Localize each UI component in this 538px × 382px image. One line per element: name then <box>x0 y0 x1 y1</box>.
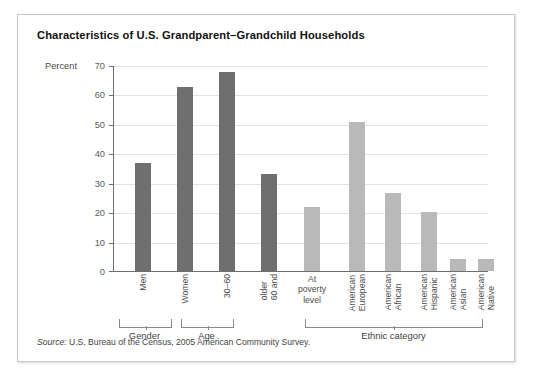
y-tick-50: 50 <box>65 120 105 130</box>
brace-ethnic-category <box>305 319 483 328</box>
gridline-40 <box>113 154 488 155</box>
x-label-line: Women <box>180 274 190 303</box>
gridline-30 <box>113 184 488 185</box>
group-label-ethnic-category: Ethnic category <box>353 330 434 341</box>
x-label-european-american: EuropeanAmerican <box>347 274 367 311</box>
bar-60-and-older <box>261 174 277 271</box>
x-label-line: American <box>383 274 393 310</box>
x-label-line: American <box>476 274 486 310</box>
bar-african-american <box>385 193 401 271</box>
x-label-hispanic-american: HispanicAmerican <box>419 274 439 310</box>
x-label-line: Men <box>138 274 148 291</box>
brace-age <box>181 319 234 328</box>
y-tick-0: 0 <box>65 267 105 277</box>
x-label-line: American <box>419 274 429 310</box>
bar-asian-american <box>450 259 466 271</box>
x-label-line: level <box>286 295 338 305</box>
y-tick-70: 70 <box>65 61 105 71</box>
y-tick-60: 60 <box>65 90 105 100</box>
x-label-line: At <box>286 274 338 284</box>
x-label-line: American <box>448 274 458 310</box>
x-label-men: Men <box>138 274 148 291</box>
bar-hispanic-american <box>421 212 437 271</box>
y-tick-30: 30 <box>65 179 105 189</box>
x-label-asian-american: AsianAmerican <box>448 274 468 310</box>
bar-native-american <box>478 259 494 271</box>
source-note: Source: U.S. Bureau of the Census, 2005 … <box>37 337 310 347</box>
bar-women <box>177 87 193 272</box>
x-label-line: 30–60 <box>222 274 232 298</box>
bar-30-60 <box>219 72 235 271</box>
gridline-50 <box>113 125 488 126</box>
x-label-line: Hispanic <box>429 274 439 310</box>
gridline-60 <box>113 95 488 96</box>
bar-at-poverty-level <box>304 207 320 271</box>
x-label-at-poverty-level: Atpovertylevel <box>286 274 338 305</box>
gridline-70 <box>113 66 488 67</box>
source-text: U.S. Bureau of the Census, 2005 American… <box>69 337 310 347</box>
x-label-30-60: 30–60 <box>222 274 232 298</box>
x-label-line: older <box>259 274 269 300</box>
x-label-women: Women <box>180 274 190 303</box>
x-label-line: poverty <box>286 284 338 294</box>
x-label-african-american: AfricanAmerican <box>383 274 403 310</box>
bar-men <box>135 163 151 271</box>
x-label-line: European <box>357 274 367 311</box>
plot-area <box>113 66 488 272</box>
x-axis-line <box>113 271 488 272</box>
y-tick-20: 20 <box>65 208 105 218</box>
x-label-line: African <box>393 274 403 310</box>
x-label-line: Native <box>486 274 496 310</box>
source-prefix: Source: <box>37 337 67 347</box>
y-axis-line <box>113 66 114 272</box>
y-tick-40: 40 <box>65 149 105 159</box>
x-label-60-and-older: 60 andolder <box>259 274 279 300</box>
chart-title: Characteristics of U.S. Grandparent–Gran… <box>37 29 467 41</box>
x-label-line: 60 and <box>269 274 279 300</box>
y-tick-10: 10 <box>65 238 105 248</box>
x-label-line: American <box>347 274 357 311</box>
figure-panel: Characteristics of U.S. Grandparent–Gran… <box>17 14 515 362</box>
brace-gender <box>119 319 172 328</box>
bar-european-american <box>349 122 365 271</box>
x-label-native-american: NativeAmerican <box>476 274 496 310</box>
x-label-line: Asian <box>458 274 468 310</box>
